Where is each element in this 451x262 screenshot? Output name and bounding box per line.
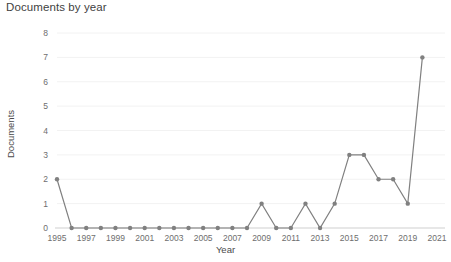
data-point[interactable] <box>55 177 59 181</box>
data-point[interactable] <box>259 201 263 205</box>
x-axis-title: Year <box>0 244 451 255</box>
data-point[interactable] <box>391 177 395 181</box>
x-tick-label: 2009 <box>252 233 271 243</box>
series-line-documents <box>57 57 422 228</box>
data-point[interactable] <box>420 55 424 59</box>
y-tick-label: 3 <box>43 150 48 160</box>
data-point[interactable] <box>142 226 146 230</box>
data-point[interactable] <box>216 226 220 230</box>
x-tick-label: 1997 <box>77 233 96 243</box>
x-tick-label: 2003 <box>164 233 183 243</box>
x-tick-label: 2011 <box>282 233 301 243</box>
data-point[interactable] <box>347 153 351 157</box>
data-point[interactable] <box>69 226 73 230</box>
x-tick-label: 2015 <box>340 233 359 243</box>
chart-container: Documents by year Documents 012345678 19… <box>0 0 451 262</box>
x-tick-label: 1995 <box>48 233 67 243</box>
y-tick-label: 8 <box>43 28 48 38</box>
data-point[interactable] <box>274 226 278 230</box>
y-tick-label: 0 <box>43 223 48 233</box>
y-tick-label: 2 <box>43 174 48 184</box>
data-point[interactable] <box>99 226 103 230</box>
data-point[interactable] <box>186 226 190 230</box>
gridlines <box>57 33 445 204</box>
x-tick-label: 2007 <box>223 233 242 243</box>
data-point[interactable] <box>332 201 336 205</box>
x-tick-label: 1999 <box>106 233 125 243</box>
data-point[interactable] <box>84 226 88 230</box>
y-tick-label: 6 <box>43 77 48 87</box>
y-tick-label: 1 <box>43 199 48 209</box>
data-point[interactable] <box>201 226 205 230</box>
data-point[interactable] <box>157 226 161 230</box>
x-tick-label: 2001 <box>135 233 154 243</box>
chart-plot-area: 012345678 199519971999200120032005200720… <box>0 0 451 262</box>
x-tick-label: 2017 <box>369 233 388 243</box>
x-tick-label: 2013 <box>311 233 330 243</box>
y-axis-ticks: 012345678 <box>43 28 48 233</box>
data-point[interactable] <box>406 201 410 205</box>
data-point[interactable] <box>362 153 366 157</box>
y-tick-label: 7 <box>43 52 48 62</box>
x-tick-label: 2005 <box>194 233 213 243</box>
x-axis-ticks: 1995199719992001200320052007200920112013… <box>48 233 447 243</box>
y-tick-label: 5 <box>43 101 48 111</box>
x-tick-label: 2021 <box>428 233 447 243</box>
data-point[interactable] <box>303 201 307 205</box>
y-tick-label: 4 <box>43 126 48 136</box>
data-point[interactable] <box>318 226 322 230</box>
data-point[interactable] <box>128 226 132 230</box>
data-point[interactable] <box>172 226 176 230</box>
data-point[interactable] <box>230 226 234 230</box>
data-point[interactable] <box>289 226 293 230</box>
data-point[interactable] <box>245 226 249 230</box>
data-point[interactable] <box>113 226 117 230</box>
x-tick-label: 2019 <box>398 233 417 243</box>
data-point[interactable] <box>376 177 380 181</box>
